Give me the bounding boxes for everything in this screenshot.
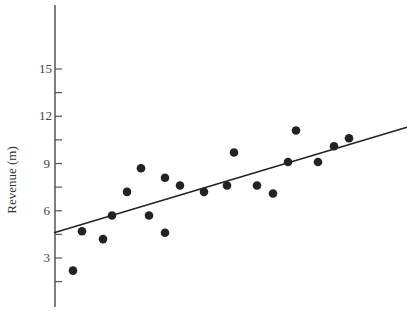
data-point <box>230 148 239 157</box>
data-point <box>223 181 232 190</box>
data-point <box>78 227 87 236</box>
data-points <box>69 126 354 275</box>
y-axis-title: Revenue (m) <box>4 146 19 214</box>
scatter-chart: 15 12 9 6 3 Revenue (m) <box>0 0 415 313</box>
y-tick-label-6: 6 <box>44 203 51 218</box>
data-point <box>176 181 185 190</box>
data-point <box>145 211 154 220</box>
data-point <box>269 189 278 198</box>
data-point <box>161 173 170 182</box>
data-point <box>161 229 170 238</box>
data-point <box>108 211 117 220</box>
trend-line-segment <box>54 127 407 233</box>
y-tick-labels: 15 12 9 6 3 <box>39 61 52 265</box>
data-point <box>137 164 146 173</box>
y-axis-ticks <box>55 69 62 282</box>
data-point <box>69 266 78 275</box>
data-point <box>345 134 354 143</box>
y-tick-label-15: 15 <box>39 61 52 76</box>
data-point <box>123 188 132 197</box>
data-point <box>314 158 323 167</box>
data-point <box>330 142 339 151</box>
y-tick-label-12: 12 <box>39 108 52 123</box>
y-tick-label-9: 9 <box>44 156 51 171</box>
y-tick-label-3: 3 <box>44 250 51 265</box>
data-point <box>200 188 209 197</box>
trend-line <box>54 127 407 233</box>
data-point <box>253 181 262 190</box>
data-point <box>292 126 301 135</box>
data-point <box>99 235 108 244</box>
data-point <box>284 158 293 167</box>
